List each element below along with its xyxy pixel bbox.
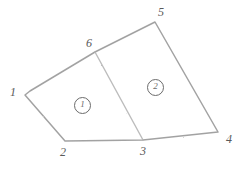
vertex-label-3: 3: [140, 145, 146, 157]
region-label-right: 2: [147, 79, 164, 96]
region-label-left: 1: [74, 97, 91, 114]
vertex-label-6: 6: [86, 37, 92, 49]
parcel-divider: [95, 52, 143, 140]
sketch-canvas: [0, 0, 243, 169]
vertex-label-2: 2: [60, 146, 66, 158]
vertex-label-5: 5: [158, 6, 164, 18]
vertex-label-1: 1: [10, 86, 16, 98]
vertex-label-4: 4: [226, 133, 232, 145]
parcel-outline: [25, 22, 218, 141]
parcel-sketch-figure: 123456 12: [0, 0, 243, 169]
